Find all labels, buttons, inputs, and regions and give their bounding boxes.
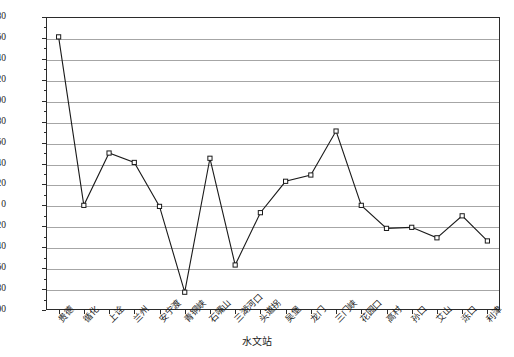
y-tick-mark [42,205,46,206]
y-tick-label: 160 [0,33,6,43]
y-tick-minor [44,90,47,91]
y-tick-label: 40 [0,159,6,169]
y-tick-label: −80 [0,284,6,294]
x-tick-label-9: 吴堡 [283,304,303,324]
y-tick-mark [42,310,46,311]
y-tick-minor [44,48,47,49]
x-tick-label-2: 上诠 [106,304,126,324]
y-tick-label: −40 [0,242,6,252]
x-tick-label-3: 兰州 [131,304,151,324]
y-tick-mark [42,38,46,39]
y-tick-mark [42,164,46,165]
y-tick-label: 120 [0,75,6,85]
y-tick-label: −20 [0,221,6,231]
y-tick-mark [42,122,46,123]
runoff-line-chart: 径流量/108m³ 180160140120100806040200−20−40… [0,0,514,357]
x-tick-label-12: 花园口 [358,298,384,324]
y-tick-minor [44,174,47,175]
y-tick-label: −60 [0,263,6,273]
x-tick-label-15: 艾山 [434,304,454,324]
x-tick-label-0: 贵德 [56,304,76,324]
x-tick-label-17: 利津 [484,304,504,324]
y-tick-mark [42,268,46,269]
y-tick-mark [42,143,46,144]
x-tick-label-14: 孙口 [409,304,429,324]
x-tick-label-10: 龙门 [308,304,328,324]
x-tick-label-13: 高村 [384,304,404,324]
y-tick-minor [44,216,47,217]
y-tick-mark [42,289,46,290]
y-tick-minor [44,132,47,133]
y-tick-label: 80 [0,117,6,127]
y-tick-minor [44,111,47,112]
y-tick-label: 140 [0,54,6,64]
x-tick-label-1: 循化 [81,304,101,324]
x-tick-label-16: 泺口 [459,304,479,324]
y-tick-label: 180 [0,12,6,22]
y-tick-minor [44,258,47,259]
y-tick-minor [44,237,47,238]
y-tick-mark [42,247,46,248]
axis-ticks-layer: 180160140120100806040200−20−40−60−80−100… [0,0,514,357]
y-tick-label: 100 [0,96,6,106]
y-tick-mark [42,80,46,81]
y-tick-mark [42,184,46,185]
y-tick-minor [44,153,47,154]
y-tick-mark [42,226,46,227]
y-tick-label: −100 [0,305,6,315]
y-tick-minor [44,27,47,28]
x-axis-title: 水文站 [0,333,514,348]
y-tick-label: 60 [0,138,6,148]
y-tick-mark [42,101,46,102]
y-tick-label: 0 [0,200,6,210]
y-tick-minor [44,69,47,70]
y-tick-minor [44,300,47,301]
y-tick-mark [42,59,46,60]
y-tick-label: 20 [0,179,6,189]
y-tick-minor [44,195,47,196]
y-tick-mark [42,17,46,18]
y-tick-minor [44,279,47,280]
